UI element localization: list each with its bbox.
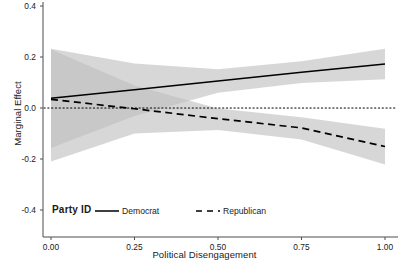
- x-tick-label: 0.50: [198, 242, 238, 252]
- y-tick-label: -0.4: [6, 205, 36, 215]
- legend-title: Party ID: [52, 204, 91, 215]
- y-axis-title: Marginal Effect: [12, 59, 23, 169]
- legend-label-democrat: Democrat: [122, 206, 159, 216]
- x-tick-label: 0.75: [282, 242, 322, 252]
- y-tick-label: 0.2: [6, 52, 36, 62]
- y-tick-label: 0.0: [6, 103, 36, 113]
- y-tick-label: -0.2: [6, 154, 36, 164]
- x-tick-label: 1.00: [365, 242, 405, 252]
- x-tick-label: 0.00: [31, 242, 71, 252]
- x-tick-label: 0.25: [115, 242, 155, 252]
- legend-label-republican: Republican: [223, 206, 266, 216]
- y-tick-label: 0.4: [6, 1, 36, 11]
- marginal-effects-chart: Marginal Effect Political Disengagement …: [0, 0, 409, 263]
- plot-canvas: [0, 0, 409, 263]
